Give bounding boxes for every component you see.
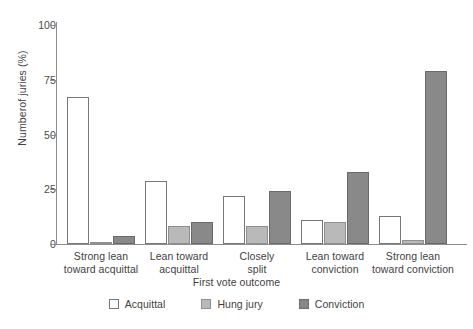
legend-item-acquittal[interactable]: Acquittal (109, 298, 166, 310)
y-axis-tick: 25 (0, 184, 56, 194)
bar-hung (168, 226, 190, 244)
bar-hung (324, 222, 346, 244)
y-axis-tick: 50 (0, 130, 56, 140)
legend-item-conviction[interactable]: Conviction (299, 298, 365, 310)
chart-legend: AcquittalHung juryConviction (0, 298, 473, 310)
bar-group (145, 22, 213, 244)
legend-label: Conviction (315, 298, 365, 310)
bar-conviction (347, 172, 369, 244)
bar-hung (402, 240, 424, 244)
y-axis-tick: 75 (0, 75, 56, 85)
legend-label: Hung jury (217, 298, 262, 310)
bar-acquittal (379, 216, 401, 244)
bar-hung (90, 242, 112, 244)
bar-conviction (113, 236, 135, 244)
bar-group (223, 22, 291, 244)
legend-label: Acquittal (125, 298, 166, 310)
bar-group (301, 22, 369, 244)
bar-acquittal (301, 220, 323, 244)
y-axis-title: Numberof juries (%) (16, 28, 28, 168)
bar-conviction (191, 222, 213, 244)
bar-group (379, 22, 447, 244)
legend-item-hung[interactable]: Hung jury (201, 298, 262, 310)
bar-acquittal (223, 196, 245, 244)
x-axis-title: First vote outcome (0, 276, 473, 288)
x-axis-tick-label: Strong leantoward conviction (357, 250, 469, 275)
bar-hung (246, 226, 268, 244)
legend-swatch-hung-icon (201, 299, 211, 309)
bar-acquittal (67, 97, 89, 244)
bar-acquittal (145, 181, 167, 245)
bar-group (67, 22, 135, 244)
y-axis-tick: 100 (0, 20, 56, 30)
x-axis-line (56, 244, 467, 245)
bar-conviction (269, 191, 291, 244)
plot-area (57, 22, 467, 244)
legend-swatch-conviction-icon (299, 299, 309, 309)
bar-conviction (425, 71, 447, 244)
legend-swatch-acquittal-icon (109, 299, 119, 309)
bar-chart: Numberof juries (%) 0255075100 Strong le… (0, 0, 473, 329)
y-axis-tick: 0 (0, 239, 56, 249)
